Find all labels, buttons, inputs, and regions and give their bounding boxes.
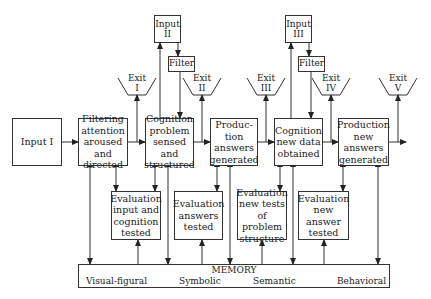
evaluation-box-new-answer: Evaluation new answer tested (298, 191, 349, 240)
evaluation-label: Evaluation answers tested (173, 198, 224, 233)
process-box-cognition-problem: Cognition problem sensed and structured (145, 118, 194, 166)
process-box-cognition-new-data: Cognition new data obtained (274, 118, 323, 166)
process-label: Production new answers generated (337, 119, 390, 165)
filter-box-2: Filter (298, 56, 325, 72)
exit-2-label: Exit II (187, 73, 217, 93)
exit-3-label: Exit III (251, 73, 281, 93)
exit-4-label: Exit IV (316, 73, 346, 93)
evaluation-box-answers: Evaluation answers tested (174, 191, 223, 240)
process-box-production-answers: Produc- tion answers generated (210, 118, 258, 166)
memory-box: MEMORY Visual-figural Symbolic Semantic … (78, 264, 390, 288)
filter-label: Filter (299, 58, 324, 70)
exit-5-label: Exit V (383, 73, 413, 93)
memory-category-symbolic: Symbolic (179, 276, 221, 286)
process-box-production-new-answers: Production new answers generated (338, 118, 389, 166)
exit-1-label: Exit I (122, 73, 152, 93)
input-2-label: Input II (155, 19, 180, 40)
process-label: Cognition problem sensed and structured (144, 113, 195, 171)
memory-title: MEMORY (79, 265, 389, 275)
evaluation-label: Evaluation new tests of problem structur… (236, 187, 287, 245)
input-3-box: Input III (285, 15, 312, 43)
process-label: Produc- tion answers generated (209, 119, 258, 165)
memory-category-semantic: Semantic (253, 276, 296, 286)
evaluation-label: Evaluation new answer tested (298, 193, 349, 239)
input-2-box: Input II (154, 15, 181, 43)
filter-label: Filter (169, 58, 194, 70)
filter-box-1: Filter (168, 56, 195, 72)
memory-category-visual-figural: Visual-figural (86, 276, 147, 286)
input-3-label: Input III (286, 19, 311, 40)
evaluation-box-new-tests: Evaluation new tests of problem structur… (237, 191, 287, 240)
process-box-filtering: Filtering attention aroused and directed (78, 118, 128, 166)
input-1-box: Input I (12, 118, 62, 166)
input-1-label: Input I (21, 136, 54, 148)
memory-category-behavioral: Behavioral (337, 276, 386, 286)
process-label: Cognition new data obtained (275, 125, 322, 160)
evaluation-box-input-cognition: Evaluation input and cognition tested (111, 191, 161, 240)
process-label: Filtering attention aroused and directed (79, 113, 127, 171)
evaluation-label: Evaluation input and cognition tested (110, 193, 161, 239)
